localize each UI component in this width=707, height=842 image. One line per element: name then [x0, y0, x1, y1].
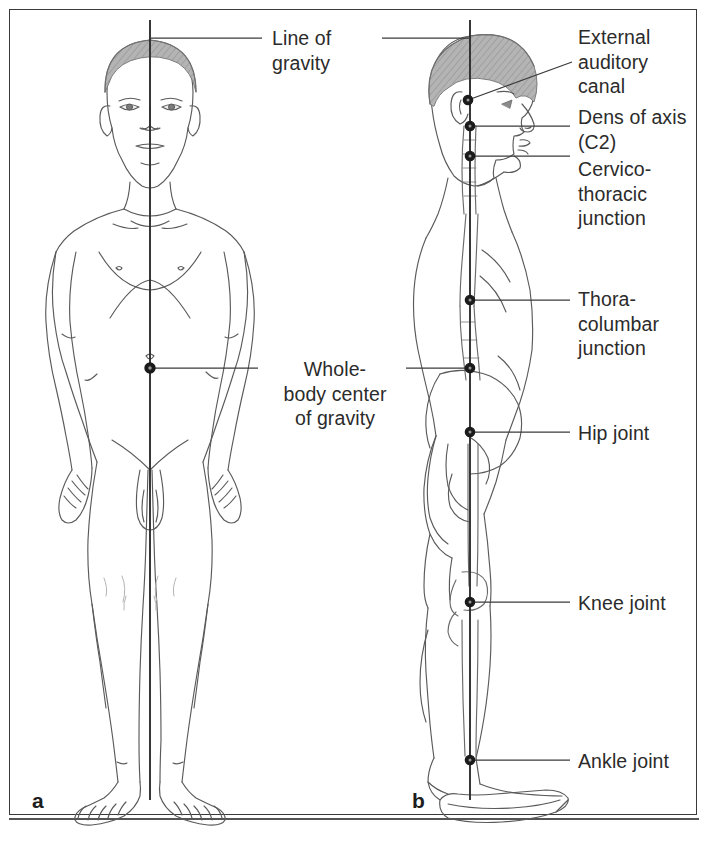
- label-hip-joint: Hip joint: [578, 421, 704, 446]
- figure-container: Line of gravity Whole- body center of gr…: [0, 0, 707, 842]
- label-line-of-gravity: Line of gravity: [272, 26, 376, 75]
- panel-letter-a: a: [32, 789, 44, 813]
- label-external-auditory-canal: External auditory canal: [578, 25, 704, 99]
- label-thoracolumbar-junction: Thora- columbar junction: [578, 287, 704, 361]
- label-knee-joint: Knee joint: [578, 591, 704, 616]
- label-dens-of-axis: Dens of axis (C2): [578, 105, 704, 154]
- leader-external-auditory-canal: [468, 62, 572, 100]
- label-cervicothoracic-junction: Cervico- thoracic junction: [578, 157, 704, 231]
- panel-letter-b: b: [412, 789, 425, 813]
- label-whole-body-center-of-gravity: Whole- body center of gravity: [262, 357, 408, 431]
- label-ankle-joint: Ankle joint: [578, 749, 704, 774]
